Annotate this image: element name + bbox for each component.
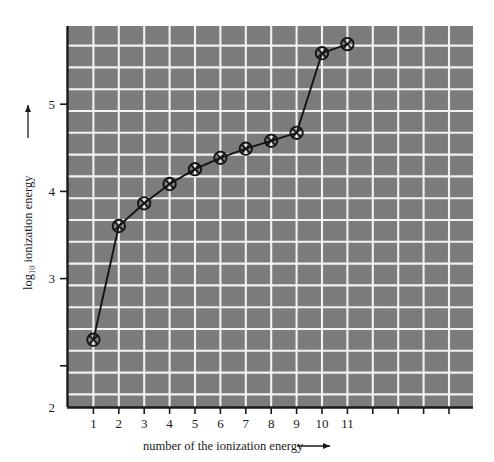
- x-axis-title-text: number of the ionization energy: [143, 439, 304, 453]
- x-tick-label: 6: [217, 416, 224, 431]
- y-axis-title-rest: ionization energy: [21, 175, 35, 266]
- x-tick-label: 8: [268, 416, 275, 431]
- x-tick-label: 2: [116, 416, 123, 431]
- x-tick-label: 10: [316, 416, 329, 431]
- y-axis-title-main: log: [21, 273, 35, 290]
- y-axis-title-subscript: 10: [27, 266, 37, 275]
- y-tick-label: 3: [49, 271, 56, 286]
- ionization-energy-chart: 5 4 3 2 1 2 3 4: [0, 0, 494, 462]
- x-tick-label: 9: [293, 416, 300, 431]
- x-tick-label: 3: [141, 416, 148, 431]
- figure-container: 5 4 3 2 1 2 3 4: [0, 0, 494, 462]
- y-tick-label: 2: [49, 400, 56, 415]
- x-tick-label: 5: [192, 416, 199, 431]
- x-tick-label: 7: [243, 416, 250, 431]
- y-tick-label: 5: [49, 97, 56, 112]
- x-axis-title: number of the ionization energy: [143, 439, 330, 453]
- x-tick-label: 1: [90, 416, 97, 431]
- x-tick-label: 11: [341, 416, 354, 431]
- y-tick-label: 4: [49, 184, 56, 199]
- x-tick-label: 4: [166, 416, 173, 431]
